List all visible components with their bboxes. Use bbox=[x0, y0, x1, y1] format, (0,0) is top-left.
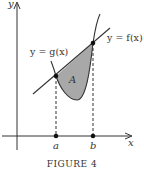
intersection-point-a bbox=[54, 74, 59, 79]
line-f-label: y = f(x) bbox=[106, 32, 143, 43]
region-a-label: A bbox=[68, 74, 76, 85]
axis-point-a bbox=[54, 134, 59, 139]
y-axis-label: y bbox=[7, 0, 14, 9]
intersection-point-b bbox=[91, 41, 96, 46]
figure-caption: FIGURE 4 bbox=[47, 159, 98, 169]
x-axis-label: x bbox=[128, 137, 134, 148]
point-a-label: a bbox=[53, 140, 59, 151]
axis-point-b bbox=[91, 134, 96, 139]
curve-g-label: y = g(x) bbox=[29, 46, 68, 57]
figure-diagram: y x y = g(x) y = f(x) A a b FIGURE 4 bbox=[0, 0, 144, 169]
point-b-label: b bbox=[90, 140, 96, 151]
